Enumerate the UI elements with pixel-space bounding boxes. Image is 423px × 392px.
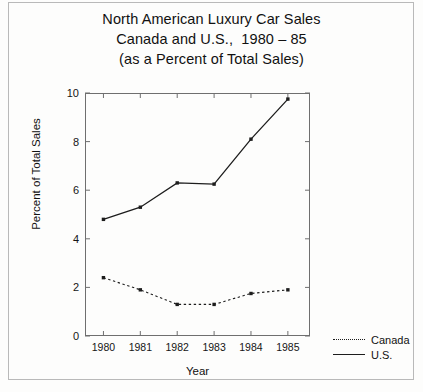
data-point	[286, 288, 289, 291]
data-point	[176, 303, 179, 306]
data-point	[139, 288, 142, 291]
y-tick-label: 2	[39, 281, 79, 293]
chart-title-line-2: Canada and U.S., 1980 – 85	[0, 29, 423, 49]
chart-figure: North American Luxury Car Sales Canada a…	[0, 0, 423, 392]
data-point	[212, 303, 215, 306]
data-point	[212, 182, 215, 185]
legend-label: U.S.	[365, 349, 392, 361]
data-point	[102, 218, 105, 221]
data-point	[176, 181, 179, 184]
x-axis-title: Year	[85, 365, 310, 377]
y-tick-label: 4	[39, 233, 79, 245]
legend-label: Canada	[365, 334, 410, 346]
data-point	[249, 292, 252, 295]
y-tick-label: 10	[39, 87, 79, 99]
y-tick-label: 8	[39, 136, 79, 148]
plot-canvas	[85, 93, 310, 336]
legend-item-us[interactable]: U.S.	[333, 347, 417, 362]
data-point	[102, 276, 105, 279]
chart-title-line-1: North American Luxury Car Sales	[0, 9, 423, 29]
data-point	[249, 137, 252, 140]
series-lines	[102, 97, 290, 306]
chart-legend: CanadaU.S.	[333, 332, 417, 362]
data-point	[286, 97, 289, 100]
data-point	[139, 206, 142, 209]
chart-title: North American Luxury Car Sales Canada a…	[0, 9, 423, 69]
chart-title-line-3: (as a Percent of Total Sales)	[0, 49, 423, 69]
series-line-canada	[103, 278, 287, 305]
legend-line-swatch	[333, 350, 365, 360]
y-tick-label: 6	[39, 184, 79, 196]
y-tick-label: 0	[39, 330, 79, 342]
series-line-us	[103, 99, 287, 219]
x-tick-label: 1985	[261, 341, 315, 353]
legend-item-canada[interactable]: Canada	[333, 332, 417, 347]
y-axis-title: Percent of Total Sales	[30, 94, 42, 254]
legend-line-swatch	[333, 335, 365, 345]
